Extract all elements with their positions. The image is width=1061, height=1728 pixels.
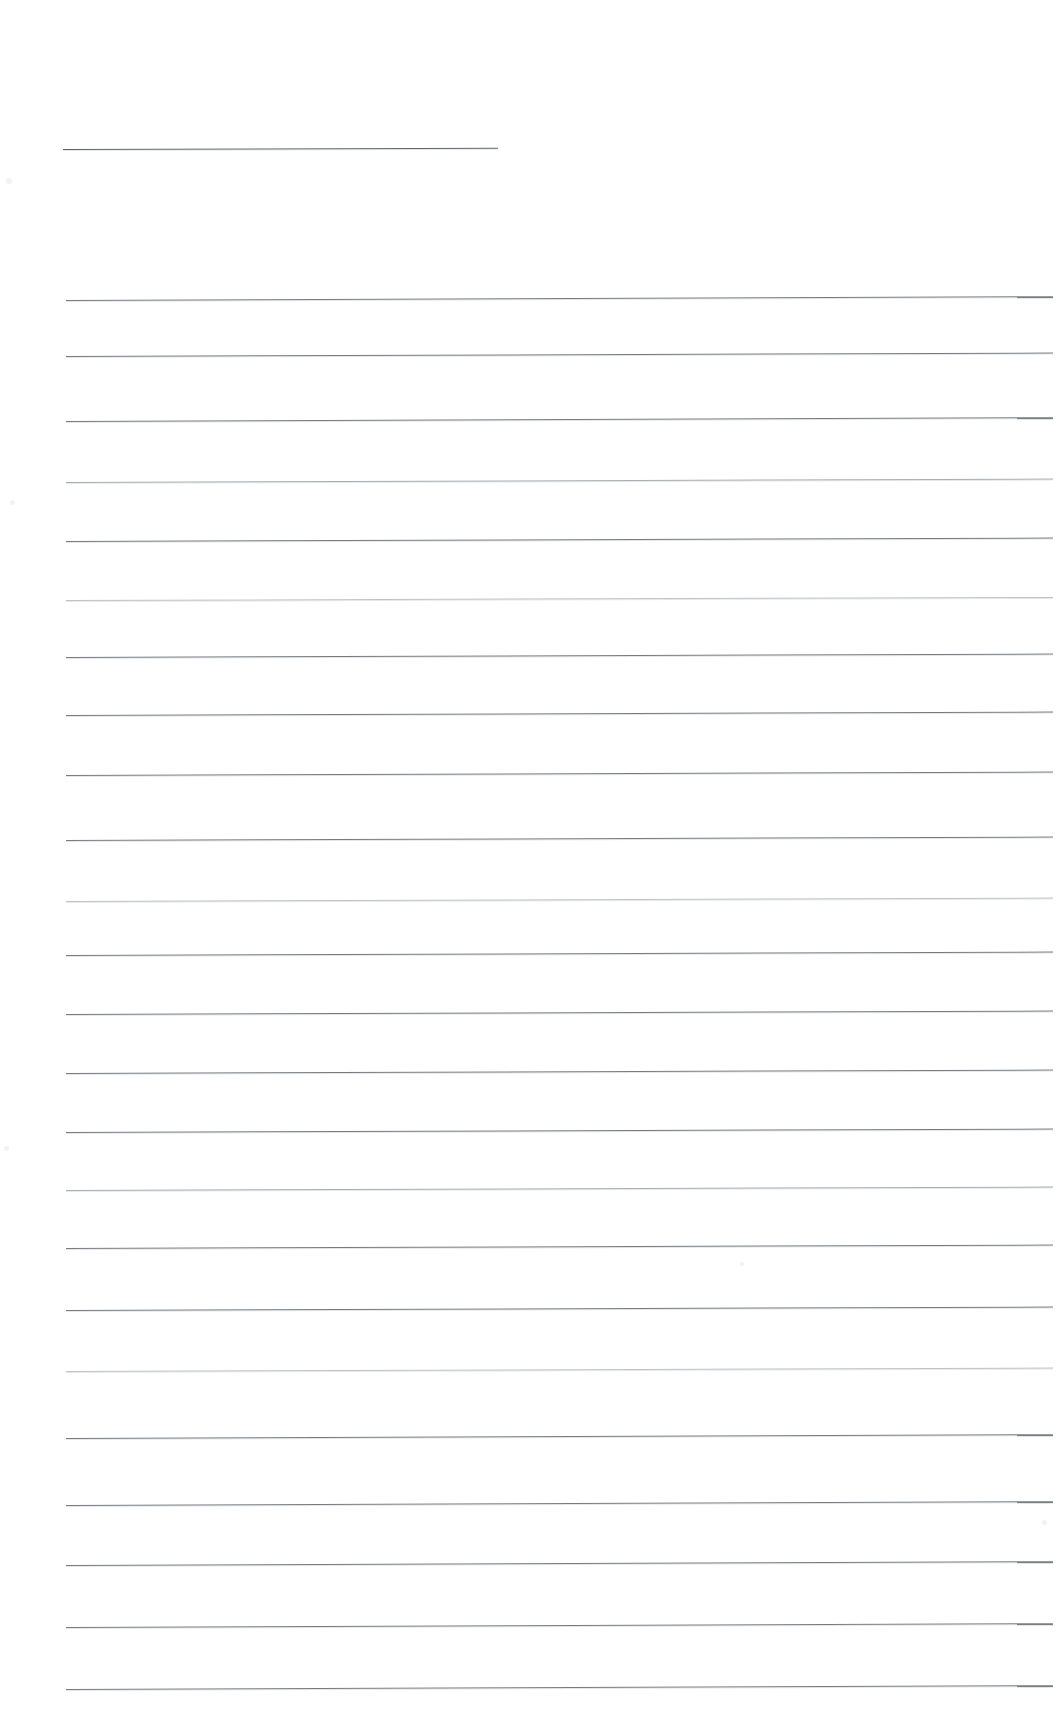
scan-speck-4	[1042, 1520, 1047, 1525]
scan-speck-3	[4, 1146, 9, 1151]
scanned-page	[0, 0, 1061, 1728]
paper-background	[0, 0, 1061, 1728]
scan-speck-1	[6, 178, 12, 184]
header-underline-rule	[63, 148, 498, 150]
scan-speck-2	[10, 500, 15, 505]
scan-speck-5	[740, 1262, 744, 1266]
